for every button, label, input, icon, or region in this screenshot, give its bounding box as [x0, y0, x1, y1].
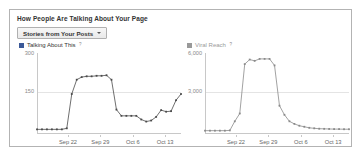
x-tick-label: Oct 13 [325, 139, 342, 145]
chart-viral-reach: Viral Reach ? 6,000 3,000 Sep 22Sep 29Oc… [182, 42, 350, 147]
x-tick-mark [333, 135, 334, 137]
x-tick-mark [268, 135, 269, 137]
chevron-down-icon [97, 32, 101, 34]
plot-area-viral-reach: 6,000 3,000 Sep 22Sep 29Oct 6Oct 13 [182, 53, 350, 147]
legend-label-viral-reach: Viral Reach [195, 42, 226, 48]
legend-label-talking-about-this: Talking About This [27, 42, 76, 48]
x-tick-mark [165, 135, 166, 137]
line-series-viral-reach [182, 53, 350, 147]
legend-viral-reach: Viral Reach ? [187, 42, 232, 48]
x-tick-label: Sep 29 [91, 139, 109, 145]
stories-filter-dropdown-label: Stories from Your Posts [23, 30, 93, 37]
charts-container: Talking About This ? 300 150 Sep 22Sep 2… [10, 42, 351, 147]
x-tick-mark [100, 135, 101, 137]
x-tick-label: Sep 22 [227, 139, 245, 145]
x-axis-labels-left: Sep 22Sep 29Oct 6Oct 13 [14, 137, 182, 147]
legend-swatch-icon [19, 43, 24, 48]
x-tick-mark [301, 135, 302, 137]
help-icon[interactable]: ? [79, 42, 82, 47]
plot-area-talking-about-this: 300 150 Sep 22Sep 29Oct 6Oct 13 [14, 53, 182, 147]
x-axis-labels-right: Sep 22Sep 29Oct 6Oct 13 [182, 137, 350, 147]
legend-talking-about-this: Talking About This ? [19, 42, 82, 48]
x-tick-label: Oct 6 [294, 139, 308, 145]
x-tick-mark [236, 135, 237, 137]
help-icon[interactable]: ? [229, 42, 232, 47]
legend-swatch-icon [187, 43, 192, 48]
chart-talking-about-this: Talking About This ? 300 150 Sep 22Sep 2… [14, 42, 182, 147]
x-tick-label: Sep 29 [259, 139, 277, 145]
line-series-talking-about-this [14, 53, 182, 147]
x-tick-label: Oct 6 [126, 139, 140, 145]
x-tick-mark [68, 135, 69, 137]
stories-filter-dropdown[interactable]: Stories from Your Posts [17, 27, 107, 39]
x-tick-label: Sep 22 [59, 139, 77, 145]
talking-about-page-panel: How People Are Talking About Your Page S… [9, 9, 352, 147]
page-title: How People Are Talking About Your Page [17, 15, 148, 22]
x-tick-mark [133, 135, 134, 137]
x-tick-label: Oct 13 [157, 139, 174, 145]
